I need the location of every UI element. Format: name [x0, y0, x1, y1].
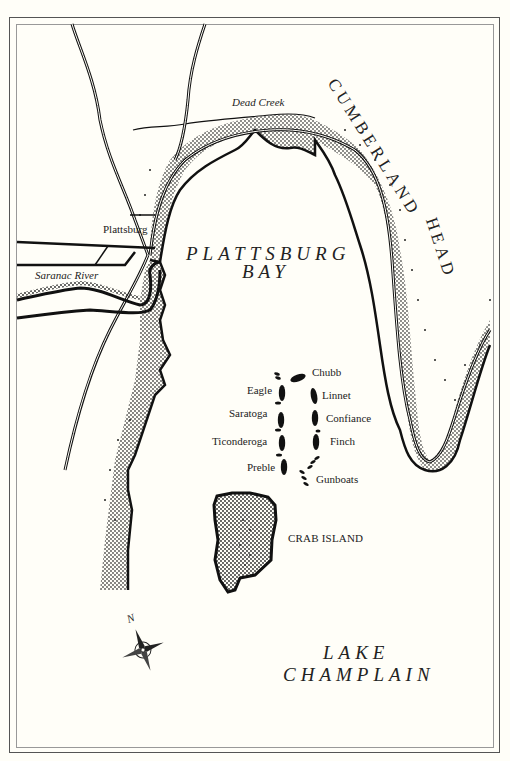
label-ship-finch: Finch: [330, 436, 355, 447]
label-lake-line2: CHAMPLAIN: [283, 665, 435, 684]
label-ship-confiance: Confiance: [326, 413, 371, 424]
british-fleet-ships: [289, 372, 320, 487]
roads: [17, 24, 205, 470]
label-saranac-river: Saranac River: [35, 270, 98, 281]
map-canvas: [0, 0, 510, 761]
label-ship-linnet: Linnet: [322, 390, 351, 401]
label-crab-island: CRAB ISLAND: [288, 533, 363, 544]
label-ship-saratoga: Saratoga: [229, 408, 267, 419]
label-plattsburg-bay-line2: BAY: [242, 262, 290, 281]
american-fleet-ships: [274, 372, 288, 475]
label-plattsburg: Plattsburg: [103, 224, 147, 235]
label-ship-eagle: Eagle: [247, 385, 272, 396]
label-dead-creek: Dead Creek: [232, 97, 284, 108]
label-ship-preble: Preble: [247, 462, 275, 473]
crab-island: [214, 493, 276, 592]
label-gunboats: Gunboats: [316, 474, 358, 485]
label-lake-line1: LAKE: [323, 643, 389, 662]
compass-rose-icon: [115, 622, 171, 678]
label-ship-ticonderoga: Ticonderoga: [212, 436, 267, 447]
label-ship-chubb: Chubb: [312, 367, 341, 378]
west-shore: [100, 260, 170, 590]
